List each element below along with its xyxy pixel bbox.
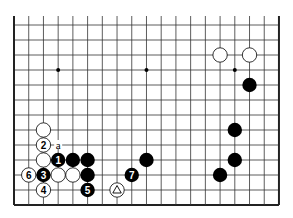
move-number: 5 (85, 185, 91, 196)
black-stone: 1 (51, 153, 65, 167)
move-number: 4 (41, 185, 47, 196)
white-stone (36, 123, 50, 137)
black-stone (139, 153, 153, 167)
black-stone: 3 (36, 168, 50, 182)
black-stone: 7 (125, 168, 139, 182)
white-stone (36, 153, 50, 167)
move-number: 7 (129, 170, 135, 181)
star-point (56, 68, 60, 72)
point-label: a (56, 139, 61, 151)
move-number: 3 (41, 170, 47, 181)
move-number: 2 (41, 140, 47, 151)
white-stone (110, 183, 124, 197)
black-stone (228, 123, 242, 137)
white-stone: 6 (22, 168, 36, 182)
go-board: 2163457 a (0, 0, 293, 218)
move-number: 1 (55, 155, 61, 166)
white-stone (242, 48, 256, 62)
move-number: 6 (26, 170, 32, 181)
black-stone: 5 (80, 183, 94, 197)
white-stone (213, 48, 227, 62)
point-labels: a (54, 139, 62, 151)
white-stone (51, 168, 65, 182)
black-stone (80, 168, 94, 182)
black-stone (242, 78, 256, 92)
black-stone (66, 153, 80, 167)
black-stone (80, 153, 94, 167)
star-point (144, 68, 148, 72)
black-stone (228, 153, 242, 167)
white-stone: 4 (36, 183, 50, 197)
star-point (233, 68, 237, 72)
white-stone (66, 168, 80, 182)
black-stone (213, 168, 227, 182)
white-stone: 2 (36, 138, 50, 152)
